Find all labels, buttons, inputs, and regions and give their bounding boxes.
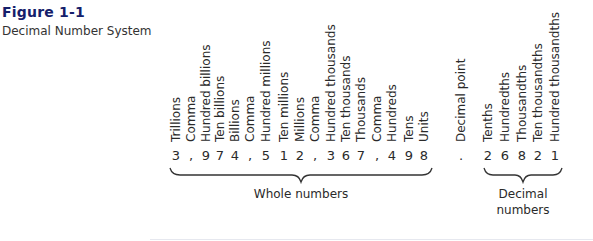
decimal-label-line1: Decimal: [493, 186, 553, 202]
decimal-label-line2: numbers: [493, 202, 553, 218]
whole-numbers-brace: [170, 168, 432, 182]
bottom-rule: [150, 239, 593, 240]
whole-numbers-label: Whole numbers: [246, 186, 356, 202]
decimal-numbers-brace: [484, 168, 562, 182]
decimal-numbers-label: Decimal numbers: [493, 186, 553, 218]
